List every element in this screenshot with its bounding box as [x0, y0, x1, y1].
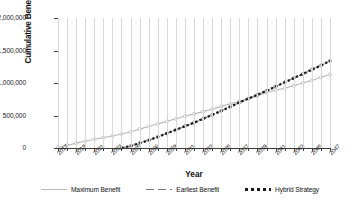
legend-item-dotted[interactable]: Hybrid Strategy: [245, 186, 319, 193]
gridline: [149, 18, 150, 148]
legend-item-solid[interactable]: Maximum Benefit: [41, 186, 120, 193]
gridline: [94, 18, 95, 148]
series-line: [121, 61, 330, 148]
y-tick-label: 1,500,000: [0, 47, 26, 54]
gridline: [221, 18, 222, 148]
legend-swatch-icon: [245, 187, 271, 193]
gridline: [203, 18, 204, 148]
gridline: [285, 18, 286, 148]
cumulative-benefit-chart: Cumulative Benefit ($) 0500,0001,000,000…: [0, 0, 360, 215]
y-tick-label: 2,000,000: [0, 14, 26, 21]
gridline: [267, 18, 268, 148]
series-line: [121, 61, 330, 148]
gridline: [131, 18, 132, 148]
gridline: [321, 18, 322, 148]
gridline: [176, 18, 177, 148]
legend-label: Hybrid Strategy: [275, 186, 319, 193]
gridline: [312, 18, 313, 148]
gridline: [167, 18, 168, 148]
gridline: [194, 18, 195, 148]
gridline: [303, 18, 304, 148]
gridline: [85, 18, 86, 148]
gridline: [103, 18, 104, 148]
gridline: [257, 18, 258, 148]
x-axis-title: Year: [58, 170, 330, 179]
gridline: [76, 18, 77, 148]
gridline: [58, 18, 59, 148]
legend-label: Maximum Benefit: [71, 186, 120, 193]
gridline: [212, 18, 213, 148]
gridline: [239, 18, 240, 148]
legend-label: Earliest Benefit: [176, 186, 219, 193]
gridline: [158, 18, 159, 148]
legend-item-dashed[interactable]: Earliest Benefit: [146, 186, 219, 193]
gridline: [276, 18, 277, 148]
gridline: [185, 18, 186, 148]
legend-swatch-icon: [41, 187, 67, 193]
y-tick-label: 500,000: [3, 112, 26, 119]
gridline: [230, 18, 231, 148]
gridline: [294, 18, 295, 148]
gridline: [112, 18, 113, 148]
gridline: [121, 18, 122, 148]
gridline: [330, 18, 331, 148]
legend-swatch-icon: [146, 187, 172, 193]
gridline: [67, 18, 68, 148]
y-tick-label: 1,000,000: [0, 79, 26, 86]
y-tick-label: 0: [22, 144, 26, 151]
gridline: [248, 18, 249, 148]
gridline: [140, 18, 141, 148]
chart-legend: Maximum BenefitEarliest BenefitHybrid St…: [0, 186, 360, 193]
